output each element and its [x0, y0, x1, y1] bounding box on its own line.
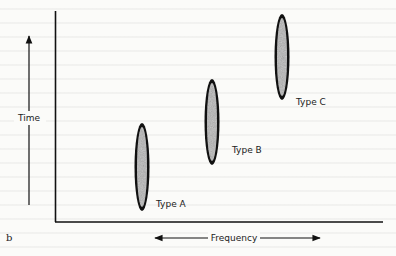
type-b-ellipse — [205, 79, 220, 165]
type-c-label: Type C — [295, 97, 326, 107]
diagram: Time Frequency b Type A Type B Type C — [0, 0, 396, 256]
type-a-ellipse — [135, 123, 150, 211]
type-b-label: Type B — [231, 145, 262, 155]
x-axis-label: Frequency — [211, 233, 258, 243]
panel-label: b — [6, 232, 12, 243]
type-c-ellipse — [275, 14, 290, 100]
type-a-label: Type A — [155, 199, 187, 209]
y-axis-label: Time — [17, 113, 40, 123]
